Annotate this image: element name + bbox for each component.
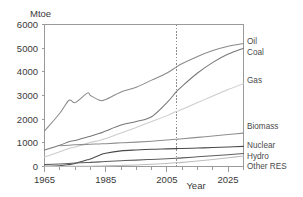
series-paths [45,43,244,166]
series-label-oil: Oil [247,37,257,46]
series-line-gas [45,84,244,157]
series-line-coal [45,48,244,150]
x-tick-label-2005: 2005 [156,174,177,185]
series-labels: Oil Coal Gas Biomass Nuclear Hydro Other… [247,37,287,171]
series-label-nuclear: Nuclear [247,141,275,150]
y-tick-label-3000: 3000 [17,90,38,101]
series-label-coal: Coal [247,48,264,57]
y-tick-label-2000: 2000 [17,114,38,125]
series-label-other-res: Other RES [247,162,287,171]
y-axis-title: Mtoe [30,8,51,19]
x-tick-label-1985: 1985 [95,174,116,185]
x-tick-label-1965: 1965 [34,174,55,185]
series-label-biomass: Biomass [247,122,278,131]
y-tick-label-0: 0 [33,161,38,172]
y-tick-label-1000: 1000 [17,137,38,148]
series-line-oil [45,43,244,131]
chart-container: Mtoe 6000 5000 4000 3000 2000 1000 0 [0,0,303,197]
y-tick-label-6000: 6000 [17,19,38,30]
series-label-hydro: Hydro [247,152,269,161]
y-tick-label-5000: 5000 [17,43,38,54]
series-label-gas: Gas [247,76,262,85]
x-axis-title: Year [186,180,205,191]
energy-line-chart: Mtoe 6000 5000 4000 3000 2000 1000 0 [0,0,303,197]
x-tick-label-2025: 2025 [218,174,239,185]
series-line-other-res [45,156,244,166]
y-tick-label-4000: 4000 [17,66,38,77]
y-axis-ticks: 6000 5000 4000 3000 2000 1000 0 [17,19,45,172]
